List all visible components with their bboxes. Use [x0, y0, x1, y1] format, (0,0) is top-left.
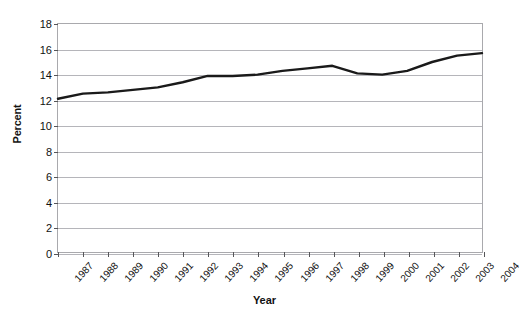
x-tick-label-1987: 1987 [72, 260, 95, 284]
x-tick-mark-1998 [334, 252, 335, 257]
x-tick-mark-1993 [208, 252, 209, 257]
x-tick-mark-1996 [284, 252, 285, 257]
x-tick-mark-2000 [384, 252, 385, 257]
y-tick-label-0: 0 [10, 254, 52, 255]
y-tick-label-18: 18 [10, 24, 52, 25]
x-tick-mark-1988 [83, 252, 84, 257]
x-tick-label-1991: 1991 [172, 260, 195, 284]
x-tick-label-2001: 2001 [423, 260, 446, 284]
x-tick-mark-1991 [158, 252, 159, 257]
x-tick-mark-1989 [108, 252, 109, 257]
x-tick-mark-1995 [258, 252, 259, 257]
x-tick-label-1989: 1989 [122, 260, 145, 284]
x-tick-mark-2004 [484, 252, 485, 257]
y-tick-label-12: 12 [10, 101, 52, 102]
x-tick-label-1995: 1995 [273, 260, 296, 284]
gridline-0 [58, 254, 482, 255]
x-axis-title: Year [0, 294, 515, 306]
y-tick-label-10: 10 [10, 126, 52, 127]
x-tick-label-2003: 2003 [473, 260, 496, 284]
y-tick-label-8: 8 [10, 152, 52, 153]
x-tick-mark-1992 [183, 252, 184, 257]
x-tick-mark-2002 [434, 252, 435, 257]
x-tick-label-1999: 1999 [373, 260, 396, 284]
x-tick-label-1998: 1998 [348, 260, 371, 284]
y-axis-title: Percent [11, 94, 23, 154]
series-line-percent [58, 24, 482, 252]
x-tick-label-2002: 2002 [448, 260, 471, 284]
x-tick-label-1993: 1993 [222, 260, 245, 284]
x-tick-mark-1999 [359, 252, 360, 257]
x-tick-label-1988: 1988 [97, 260, 120, 284]
x-tick-label-1996: 1996 [298, 260, 321, 284]
x-tick-label-1997: 1997 [323, 260, 346, 284]
y-tick-label-16: 16 [10, 50, 52, 51]
x-tick-mark-1990 [133, 252, 134, 257]
x-tick-mark-2001 [409, 252, 410, 257]
x-tick-mark-1987 [58, 252, 59, 257]
x-tick-mark-1997 [309, 252, 310, 257]
plot-area: 024681012141618 198719881989199019911992… [57, 23, 483, 253]
x-tick-label-2004: 2004 [498, 260, 521, 284]
x-tick-label-1992: 1992 [197, 260, 220, 284]
x-tick-label-1990: 1990 [147, 260, 170, 284]
x-tick-label-2000: 2000 [398, 260, 421, 284]
y-tick-label-4: 4 [10, 203, 52, 204]
y-tick-label-14: 14 [10, 75, 52, 76]
x-tick-mark-2003 [459, 252, 460, 257]
x-tick-mark-1994 [233, 252, 234, 257]
x-tick-label-1994: 1994 [247, 260, 270, 284]
y-tick-label-2: 2 [10, 228, 52, 229]
y-tick-label-6: 6 [10, 177, 52, 178]
